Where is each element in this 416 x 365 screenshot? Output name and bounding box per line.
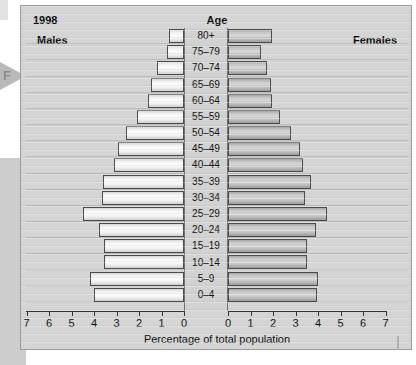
male-bar xyxy=(103,175,184,189)
female-bar xyxy=(228,110,280,124)
female-bar xyxy=(228,126,291,140)
x-tick-left xyxy=(27,311,28,316)
male-bar xyxy=(114,158,184,172)
x-tick-label-left: 4 xyxy=(86,317,102,329)
x-tick-label-right: 2 xyxy=(265,317,281,329)
x-tick-label-right: 5 xyxy=(333,317,349,329)
female-bar xyxy=(228,61,267,75)
female-bar xyxy=(228,223,316,237)
age-group-label: 0–4 xyxy=(184,287,228,303)
x-tick-label-right: 6 xyxy=(355,317,371,329)
male-bar xyxy=(157,61,184,75)
x-tick-right xyxy=(363,311,364,316)
x-tick-left xyxy=(162,311,163,316)
male-bar xyxy=(104,239,184,253)
x-tick-right xyxy=(228,311,229,316)
x-tick-right xyxy=(251,311,252,316)
x-tick-label-right: 0 xyxy=(220,317,236,329)
age-group-label: 75–79 xyxy=(184,44,228,60)
x-tick-right xyxy=(296,311,297,316)
female-bar xyxy=(228,191,305,205)
female-bar xyxy=(228,142,300,156)
x-tick-left xyxy=(94,311,95,316)
age-group-label: 80+ xyxy=(184,28,228,44)
x-tick-left xyxy=(49,311,50,316)
female-bar xyxy=(228,207,327,221)
age-group-label: 65–69 xyxy=(184,77,228,93)
x-tick-right xyxy=(273,311,274,316)
top-left-background-block xyxy=(0,0,8,20)
x-tick-label-right: 1 xyxy=(243,317,259,329)
male-bar xyxy=(167,45,184,59)
page-canvas: F 1998 Age Males Females 80+75–7970–7465… xyxy=(0,0,416,365)
x-tick-label-left: 1 xyxy=(154,317,170,329)
female-bar xyxy=(228,94,272,108)
female-bar xyxy=(228,175,311,189)
x-tick-left xyxy=(184,311,185,316)
age-axis-header: Age xyxy=(21,14,413,26)
female-bar xyxy=(228,288,317,302)
age-group-label: 40–44 xyxy=(184,157,228,173)
x-tick-left xyxy=(72,311,73,316)
age-group-label: 50–54 xyxy=(184,125,228,141)
age-group-label: 10–14 xyxy=(184,255,228,271)
x-tick-right xyxy=(386,311,387,316)
male-bar xyxy=(126,126,185,140)
x-tick-label-right: 3 xyxy=(288,317,304,329)
male-bar xyxy=(151,78,184,92)
x-axis-title: Percentage of total population xyxy=(21,333,413,345)
x-tick-right xyxy=(341,311,342,316)
male-bar xyxy=(118,142,184,156)
female-bar xyxy=(228,272,318,286)
x-tick-left xyxy=(117,311,118,316)
male-bar xyxy=(104,255,184,269)
male-bar xyxy=(148,94,184,108)
margin-marker-label: F xyxy=(3,67,11,85)
plot-area: 80+75–7970–7465–6960–6455–5950–5445–4940… xyxy=(21,28,413,311)
male-bar xyxy=(137,110,184,124)
x-tick-label-left: 6 xyxy=(41,317,57,329)
male-bar xyxy=(94,288,184,302)
age-group-label: 30–34 xyxy=(184,190,228,206)
bottom-right-white-patch xyxy=(374,350,416,365)
male-bar xyxy=(169,29,184,43)
x-tick-label-left: 2 xyxy=(131,317,147,329)
age-group-label: 25–29 xyxy=(184,206,228,222)
x-tick-label-left: 5 xyxy=(64,317,80,329)
age-group-label: 45–49 xyxy=(184,141,228,157)
age-group-label: 70–74 xyxy=(184,60,228,76)
age-group-label: 5–9 xyxy=(184,271,228,287)
age-group-label: 55–59 xyxy=(184,109,228,125)
x-tick-label-left: 0 xyxy=(176,317,192,329)
female-bar xyxy=(228,45,261,59)
x-tick-label-right: 4 xyxy=(310,317,326,329)
female-bar xyxy=(228,29,272,43)
male-bar xyxy=(90,272,185,286)
female-bar xyxy=(228,78,271,92)
age-group-label: 20–24 xyxy=(184,222,228,238)
x-tick-left xyxy=(139,311,140,316)
age-group-label: 60–64 xyxy=(184,93,228,109)
female-bar xyxy=(228,158,303,172)
female-bar xyxy=(228,255,307,269)
male-bar xyxy=(102,191,184,205)
x-tick-label-right: 7 xyxy=(378,317,394,329)
x-tick-right xyxy=(318,311,319,316)
x-tick-label-left: 3 xyxy=(109,317,125,329)
female-bar xyxy=(228,239,307,253)
age-group-label: 35–39 xyxy=(184,174,228,190)
age-group-label: 15–19 xyxy=(184,238,228,254)
male-bar xyxy=(99,223,185,237)
x-tick-label-left: 7 xyxy=(19,317,35,329)
x-axis: 0011223344556677 Percentage of total pop… xyxy=(21,311,413,351)
male-bar xyxy=(83,207,184,221)
population-pyramid-chart: 1998 Age Males Females 80+75–7970–7465–6… xyxy=(20,5,412,350)
